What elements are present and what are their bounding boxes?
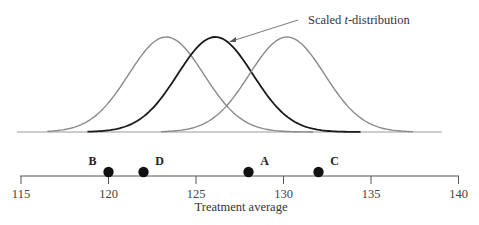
data-point-label: C [330,154,339,168]
x-tick-label: 130 [274,187,293,201]
x-tick-label: 125 [187,187,206,201]
distribution-curves [47,37,413,132]
data-point-label: D [155,154,164,168]
t-distribution-chart: Scaled t-distribution 115120125130135140… [0,0,479,225]
x-tick-label: 140 [449,187,468,201]
x-axis-ticks: 115120125130135140 [12,176,468,201]
data-point-a [243,167,253,177]
x-tick-label: 115 [12,187,30,201]
data-point-label: A [260,154,269,168]
data-point-d [138,167,148,177]
x-axis-label: Treatment average [195,200,288,214]
scaled-t-curve [88,37,361,132]
data-point-b [103,167,113,177]
data-point-c [313,167,323,177]
reference-curve [47,37,313,132]
data-point-label: B [88,154,96,168]
annotation-arrow [232,20,298,41]
annotation-label: Scaled t-distribution [308,13,410,27]
x-tick-label: 120 [99,187,118,201]
data-points: BDAC [88,154,338,177]
x-tick-label: 135 [362,187,381,201]
arrow-head-icon [229,37,236,42]
